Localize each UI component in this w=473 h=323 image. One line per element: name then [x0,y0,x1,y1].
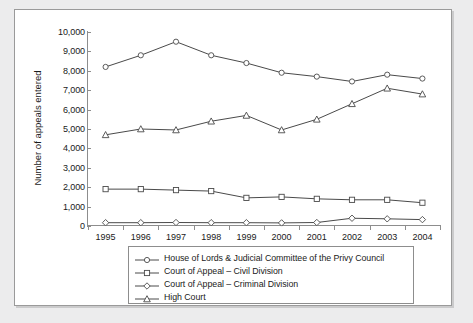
page-background: Number of appeals entered 10,0009,0008,0… [0,0,473,323]
series-line [106,189,423,203]
series-line [106,42,423,82]
y-axis-tick-mark [87,71,91,72]
diamond-marker-icon [135,278,159,290]
y-axis-tick-mark [87,207,91,208]
x-axis-tick-label: 2003 [377,232,397,242]
data-point-marker [385,72,390,77]
y-axis-tick-mark [87,148,91,149]
series-line [106,88,423,135]
chart-legend: House of Lords & Judicial Committee of t… [128,246,414,304]
y-axis-tick-mark [87,129,91,130]
data-point-marker [349,197,354,202]
data-point-marker [173,39,178,44]
x-axis-tick-mark [440,226,441,230]
y-axis-tick-mark [87,187,91,188]
triangle-marker-icon [135,291,159,303]
data-point-marker [209,53,214,58]
data-point-marker [349,215,355,221]
legend-item[interactable]: House of Lords & Judicial Committee of t… [135,251,407,264]
data-point-marker [243,112,250,118]
legend-item[interactable]: Court of Appeal – Criminal Division [135,277,407,290]
chart-series [103,39,425,84]
x-axis-tick-mark [405,226,406,230]
x-axis-tick-label: 2000 [272,232,292,242]
chart-series [103,187,425,206]
data-point-marker [349,100,356,106]
chart-series [102,215,425,226]
x-axis-tick-label: 2002 [342,232,362,242]
x-axis-tick-label: 1997 [166,232,186,242]
x-axis-tick-label: 1998 [201,232,221,242]
x-axis-tick-mark [299,226,300,230]
x-axis-tick-mark [158,226,159,230]
data-point-marker [138,220,144,226]
data-point-marker [144,282,150,288]
x-axis-tick-label: 1999 [236,232,256,242]
legend-item[interactable]: Court of Appeal – Civil Division [135,264,407,277]
data-point-marker [144,270,149,275]
data-point-marker [244,60,249,65]
legend-item-label: Court of Appeal – Civil Division [164,266,283,276]
data-point-marker [279,194,284,199]
data-point-marker [384,85,391,91]
legend-item-label: House of Lords & Judicial Committee of t… [164,253,384,263]
series-line [106,218,423,223]
data-point-marker [385,197,390,202]
data-point-marker [103,64,108,69]
data-point-marker [419,216,425,222]
x-axis-tick-mark [334,226,335,230]
data-point-marker [420,76,425,81]
y-axis-tick-mark [87,32,91,33]
square-marker-icon [135,265,159,277]
data-point-marker [144,257,149,262]
data-point-marker [103,187,108,192]
x-axis-tick-mark [123,226,124,230]
data-point-marker [314,219,320,225]
data-point-marker [314,196,319,201]
legend-item-label: Court of Appeal – Criminal Division [164,279,298,289]
data-point-marker [314,74,319,79]
data-point-marker [173,219,179,225]
data-point-marker [244,195,249,200]
y-axis-tick-mark [87,90,91,91]
x-axis-tick-label: 1996 [131,232,151,242]
x-axis-tick-label: 2004 [412,232,432,242]
data-point-marker [138,187,143,192]
data-point-marker [138,53,143,58]
data-point-marker [420,200,425,205]
data-point-marker [279,70,284,75]
data-point-marker [208,220,214,226]
y-axis-tick-mark [87,168,91,169]
circle-marker-icon [135,252,159,264]
data-point-marker [173,188,178,193]
x-axis-tick-label: 2001 [307,232,327,242]
data-point-marker [278,220,284,226]
chart-panel: Number of appeals entered 10,0009,0008,0… [14,9,452,306]
x-axis-tick-mark [88,226,89,230]
y-axis-tick-mark [87,51,91,52]
x-axis-tick-mark [194,226,195,230]
legend-item-label: High Court [164,292,206,302]
data-point-marker [349,79,354,84]
x-axis-tick-label: 1995 [96,232,116,242]
data-point-marker [102,220,108,226]
data-point-marker [314,116,321,122]
x-axis-tick-mark [264,226,265,230]
legend-item[interactable]: High Court [135,290,407,303]
chart-series [102,85,425,138]
data-point-marker [384,216,390,222]
x-axis-tick-mark [370,226,371,230]
data-point-marker [243,220,249,226]
x-axis-tick-mark [229,226,230,230]
y-axis-tick-mark [87,110,91,111]
data-point-marker [209,188,214,193]
